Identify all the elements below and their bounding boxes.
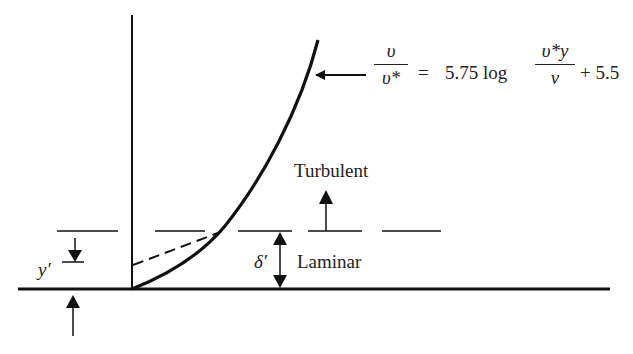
velocity-profile-diagram: υ υ* = 5.75 log υ*y ν + 5.5 Turbulent La… <box>0 0 633 354</box>
turbulent-label: Turbulent <box>294 160 368 182</box>
velocity-profile-curve <box>132 40 318 289</box>
lhs-numerator: υ <box>374 40 408 62</box>
turbulent-arrow <box>319 190 333 231</box>
equation-coefficient: 5.75 log <box>445 62 507 84</box>
equation-lhs-fraction: υ υ* <box>374 40 408 89</box>
lhs-fraction-bar <box>374 64 408 65</box>
equation-equals: = <box>418 62 429 84</box>
rhs-numerator: υ*y <box>535 40 575 62</box>
rhs-denominator: ν <box>535 67 575 89</box>
laminar-label: Laminar <box>297 251 361 273</box>
lhs-denominator: υ* <box>374 67 408 89</box>
equation-constant: + 5.5 <box>580 62 619 84</box>
y-prime-label: y′ <box>38 259 51 281</box>
equation-rhs-fraction: υ*y ν <box>535 40 575 89</box>
laminar-extrapolation-dashed <box>133 233 218 265</box>
delta-prime-dimension-arrow <box>273 232 287 288</box>
rhs-fraction-bar <box>535 64 575 65</box>
delta-prime-label: δ′ <box>254 251 267 273</box>
y-prime-dimension-arrows <box>62 238 84 336</box>
